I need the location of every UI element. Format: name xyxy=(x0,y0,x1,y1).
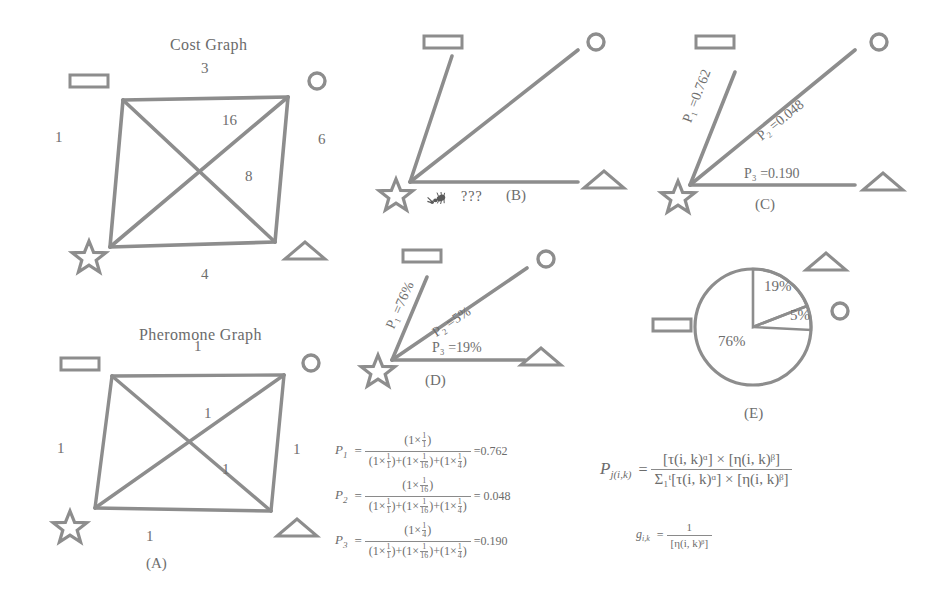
rectangle-node xyxy=(61,358,99,370)
panel-c-p3-label: P₃ =0.190 xyxy=(744,166,800,182)
formula-visibility-numerator: 1 xyxy=(683,521,697,535)
formula-p1-denominator: (1×11)+(1×116)+(1×14) xyxy=(365,451,471,471)
pheromone-edge-right-label: 1 xyxy=(293,441,301,458)
formula-p1-fraction: (1×11) (1×11)+(1×116)+(1×14) xyxy=(365,432,471,471)
formula-probability-equals: = xyxy=(638,461,647,479)
triangle-node xyxy=(806,253,846,270)
cost-graph-title: Cost Graph xyxy=(170,36,247,54)
formula-p3-lhs: P3 xyxy=(335,532,347,550)
formula-probability-denominator: Σ₁ᵗ[τ(i, k)ᵅ] × [η(i, k)ᵝ] xyxy=(651,469,793,488)
circle-node xyxy=(832,303,848,319)
triangle-node xyxy=(277,519,317,536)
triangle-node xyxy=(584,171,624,188)
formula-p2-fraction: (1×116) (1×11)+(1×116)+(1×14) xyxy=(365,477,471,516)
rectangle-node xyxy=(403,250,441,262)
formula-probability-lhs: Pj(i,k) xyxy=(600,459,631,480)
formula-p2-equals: = xyxy=(354,488,361,504)
star-node xyxy=(72,241,106,272)
star-node xyxy=(361,355,395,386)
panel-b-id: (B) xyxy=(506,187,526,204)
pheromone-edge-left-label: 1 xyxy=(57,440,65,457)
panel-c-id: (C) xyxy=(755,196,775,213)
panel-b-question: ??? xyxy=(461,189,483,205)
cost-edge-right-label: 6 xyxy=(318,131,326,148)
panel-d-p3-label: P₃ =19% xyxy=(432,340,482,356)
panel-e-id: (E) xyxy=(744,405,763,422)
cost-graph-edges xyxy=(110,97,288,247)
pheromone-graph-edges xyxy=(95,375,284,511)
cost-edge-bottom-label: 4 xyxy=(201,266,209,283)
cost-edge-diagonal-upper-label: 16 xyxy=(222,112,237,129)
rectangle-node xyxy=(653,319,691,331)
circle-node xyxy=(871,34,887,50)
pie-chart xyxy=(695,269,811,385)
formula-visibility-denominator: [η(i, k)ᵝ] xyxy=(667,535,713,550)
panel-d-id: (D) xyxy=(425,372,446,389)
pheromone-edge-diagonal-upper-label: 1 xyxy=(204,405,212,422)
cost-edge-diagonal-lower-label: 8 xyxy=(245,168,253,185)
formula-p3-equals: = xyxy=(354,533,361,549)
formula-p3: P3 = (1×14) (1×11)+(1×116)+(1×14) =0.190 xyxy=(335,522,507,561)
pheromone-edge-diagonal-lower-label: 1 xyxy=(222,461,230,478)
pie-label-5: 5% xyxy=(790,307,810,324)
triangle-node xyxy=(285,242,325,259)
star-node xyxy=(53,511,87,542)
formula-p3-numerator: (1×14) xyxy=(400,522,435,541)
formula-p1-numerator: (1×11) xyxy=(400,432,435,451)
formula-probability-fraction: [τ(i, k)ᵅ] × [η(i, k)ᵝ] Σ₁ᵗ[τ(i, k)ᵅ] × … xyxy=(651,451,793,489)
rectangle-node xyxy=(70,75,108,87)
figure-canvas: Cost Graph 3 1 6 4 16 8 Pheromone Graph … xyxy=(0,0,948,593)
panel-a-id: (A) xyxy=(146,555,167,572)
formula-probability: Pj(i,k) = [τ(i, k)ᵅ] × [η(i, k)ᵝ] Σ₁ᵗ[τ(… xyxy=(600,451,792,489)
formula-p2-result: = 0.048 xyxy=(474,489,511,504)
formula-p2: P2 = (1×116) (1×11)+(1×116)+(1×14) = 0.0… xyxy=(335,477,510,516)
pie-chart-nodes xyxy=(653,253,848,331)
formula-visibility-lhs: gi,k xyxy=(636,527,650,543)
formula-p3-fraction: (1×14) (1×11)+(1×116)+(1×14) xyxy=(365,522,471,561)
panel-b-edges xyxy=(410,50,578,182)
ant-icon xyxy=(427,192,446,204)
rectangle-node xyxy=(696,36,734,48)
triangle-node xyxy=(521,348,561,365)
formula-p3-denominator: (1×11)+(1×116)+(1×14) xyxy=(365,541,471,561)
star-node xyxy=(379,179,413,210)
formula-visibility: gi,k = 1 [η(i, k)ᵝ] xyxy=(636,521,712,549)
triangle-node xyxy=(863,173,903,190)
formula-p1: P1 = (1×11) (1×11)+(1×116)+(1×14) =0.762 xyxy=(335,432,507,471)
cost-edge-top-label: 3 xyxy=(201,60,209,77)
formula-p1-result: =0.762 xyxy=(474,444,508,459)
pheromone-graph-nodes xyxy=(53,355,319,542)
formula-probability-numerator: [τ(i, k)ᵅ] × [η(i, k)ᵝ] xyxy=(659,451,784,469)
formula-visibility-equals: = xyxy=(657,528,664,543)
formula-p2-lhs: P2 xyxy=(335,487,347,505)
circle-node xyxy=(303,355,319,371)
cost-edge-left-label: 1 xyxy=(55,129,63,146)
rectangle-node xyxy=(424,36,462,48)
formula-p2-denominator: (1×11)+(1×116)+(1×14) xyxy=(365,496,471,516)
formula-p1-lhs: P1 xyxy=(335,442,347,460)
circle-node xyxy=(309,73,325,89)
pheromone-edge-bottom-label: 1 xyxy=(146,528,154,545)
formula-visibility-fraction: 1 [η(i, k)ᵝ] xyxy=(667,521,713,549)
pie-label-76: 76% xyxy=(718,333,746,350)
circle-node xyxy=(588,34,604,50)
pheromone-edge-top-label: 1 xyxy=(194,338,202,355)
pie-label-19: 19% xyxy=(764,278,792,295)
formula-p3-result: =0.190 xyxy=(474,534,508,549)
formula-p1-equals: = xyxy=(354,443,361,459)
circle-node xyxy=(538,251,554,267)
formula-p2-numerator: (1×116) xyxy=(398,477,437,496)
